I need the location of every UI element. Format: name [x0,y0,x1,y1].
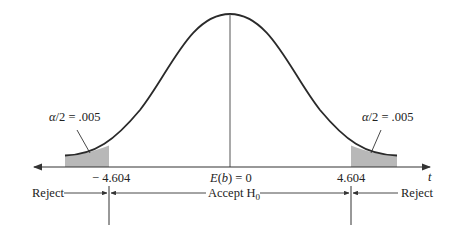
left-critical-value: − 4.604 [92,171,131,185]
center-label: E(b) = 0 [209,171,252,185]
left-rejection-area [65,146,109,168]
right-rejection-area [351,146,397,168]
right-tail-leader [371,130,381,153]
left-tail-leader [77,130,90,153]
accept-label: Accept H0 [208,186,261,202]
right-tail-label: α/2 = .005 [362,110,413,124]
right-reject-label: Reject [401,186,433,200]
t-distribution-diagram: t α/2 = .005 α/2 = .005 − 4.604 4.604 E(… [0,0,455,236]
left-tail-label: α/2 = .005 [49,110,100,124]
left-reject-label: Reject [32,186,64,200]
axis-variable-label: t [428,170,432,184]
density-curve [65,14,397,156]
right-critical-value: 4.604 [337,171,366,185]
